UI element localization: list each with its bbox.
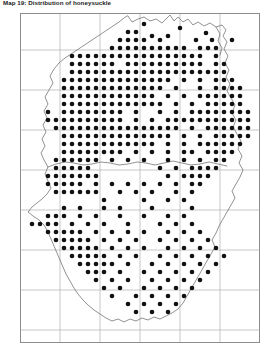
distribution-dot xyxy=(86,54,91,59)
distribution-dot xyxy=(118,238,123,243)
distribution-dot xyxy=(174,182,179,187)
distribution-dot xyxy=(142,214,147,219)
distribution-dot xyxy=(142,94,147,99)
distribution-dot xyxy=(54,118,59,123)
distribution-dot xyxy=(86,246,91,251)
distribution-dot xyxy=(150,150,155,155)
distribution-dot xyxy=(198,86,203,91)
distribution-dot xyxy=(86,222,91,227)
distribution-dot xyxy=(174,46,179,51)
distribution-dot xyxy=(190,182,195,187)
distribution-dot xyxy=(46,214,51,219)
distribution-dot xyxy=(54,158,59,163)
distribution-dot xyxy=(78,150,83,155)
distribution-dot xyxy=(238,126,243,131)
distribution-dot xyxy=(78,182,83,187)
distribution-dot xyxy=(246,118,251,123)
distribution-dot xyxy=(94,254,99,259)
distribution-dot xyxy=(134,150,139,155)
distribution-dot xyxy=(134,190,139,195)
distribution-dot xyxy=(118,70,123,75)
distribution-dot xyxy=(166,310,171,315)
distribution-dot xyxy=(206,150,211,155)
distribution-dot xyxy=(166,54,171,59)
distribution-dot xyxy=(102,150,107,155)
distribution-dot xyxy=(102,206,107,211)
distribution-dot xyxy=(110,230,115,235)
distribution-dot xyxy=(54,214,59,219)
distribution-dot xyxy=(206,166,211,171)
distribution-dot xyxy=(126,230,131,235)
distribution-dot xyxy=(198,278,203,283)
distribution-dot xyxy=(206,70,211,75)
distribution-dot xyxy=(134,102,139,107)
distribution-dot xyxy=(158,254,163,259)
distribution-dot xyxy=(102,110,107,115)
distribution-dot xyxy=(126,38,131,43)
distribution-dot xyxy=(150,134,155,139)
distribution-dot xyxy=(62,142,67,147)
distribution-dot xyxy=(86,62,91,67)
distribution-dot xyxy=(150,190,155,195)
distribution-dot xyxy=(86,78,91,83)
distribution-dot xyxy=(166,262,171,267)
distribution-dot xyxy=(134,54,139,59)
distribution-dot xyxy=(62,94,67,99)
distribution-dot xyxy=(70,158,75,163)
distribution-dot xyxy=(102,198,107,203)
distribution-dot xyxy=(118,214,123,219)
distribution-dot xyxy=(190,222,195,227)
distribution-dot xyxy=(222,158,227,163)
distribution-dot xyxy=(46,182,51,187)
distribution-dot xyxy=(182,134,187,139)
distribution-dot xyxy=(204,31,209,36)
distribution-dot xyxy=(78,54,83,59)
distribution-dot xyxy=(150,86,155,91)
distribution-dot xyxy=(166,230,171,235)
distribution-dot xyxy=(118,270,123,275)
distribution-dot xyxy=(110,134,115,139)
distribution-dot xyxy=(110,102,115,107)
distribution-dot xyxy=(142,246,147,251)
distribution-dot xyxy=(94,126,99,131)
distribution-dot xyxy=(126,70,131,75)
distribution-dot xyxy=(70,110,75,115)
distribution-dot xyxy=(206,174,211,179)
distribution-dot xyxy=(174,222,179,227)
distribution-dot xyxy=(238,86,243,91)
distribution-dot xyxy=(134,86,139,91)
distribution-dot xyxy=(166,34,171,39)
distribution-dot xyxy=(158,62,163,67)
distribution-dot xyxy=(70,174,75,179)
distribution-dot xyxy=(134,30,139,35)
distribution-dot xyxy=(86,94,91,99)
distribution-dot xyxy=(182,150,187,155)
distribution-dot xyxy=(166,278,171,283)
distribution-dot xyxy=(62,230,67,235)
distribution-dot xyxy=(190,102,195,107)
distribution-dot xyxy=(110,54,115,59)
distribution-dot xyxy=(78,110,83,115)
distribution-dot xyxy=(198,142,203,147)
distribution-dot xyxy=(166,198,171,203)
distribution-dot xyxy=(118,150,123,155)
distribution-dot xyxy=(78,70,83,75)
distribution-dot xyxy=(78,254,83,259)
distribution-dot xyxy=(142,286,147,291)
distribution-dot xyxy=(150,206,155,211)
distribution-dot xyxy=(222,70,227,75)
distribution-dot xyxy=(102,62,107,67)
distribution-dot xyxy=(174,118,179,123)
distribution-dot xyxy=(94,190,99,195)
distribution-dot xyxy=(166,214,171,219)
distribution-dot xyxy=(198,78,203,83)
distribution-dot xyxy=(158,270,163,275)
distribution-dot xyxy=(174,110,179,115)
distribution-dot xyxy=(110,46,115,51)
distribution-dot xyxy=(214,262,219,267)
distribution-dot xyxy=(142,46,147,51)
distribution-dot xyxy=(78,102,83,107)
distribution-dot xyxy=(182,174,187,179)
distribution-dot xyxy=(198,182,203,187)
distribution-dot xyxy=(118,190,123,195)
